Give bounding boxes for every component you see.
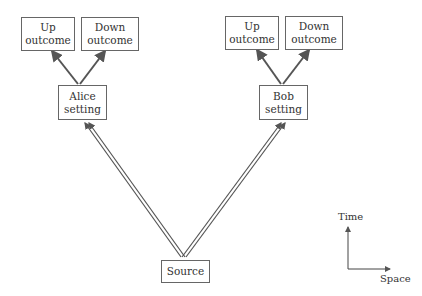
alice-to-up-arrow	[52, 51, 78, 84]
box-line: outcome	[87, 34, 133, 47]
source-to-alice-line-1	[85, 123, 181, 257]
source-box: Source	[161, 260, 210, 283]
bob-up-outcome-box: Up outcome	[225, 16, 279, 50]
box-line: outcome	[291, 33, 337, 46]
box-line: outcome	[229, 33, 275, 46]
space-label: Space	[380, 273, 411, 284]
box-line: Alice	[69, 90, 95, 103]
source-label: Source	[167, 265, 204, 278]
box-line: Down	[95, 21, 126, 34]
source-to-bob-line-2	[186, 123, 285, 257]
alice-setting-box: Alice setting	[58, 85, 107, 120]
bob-to-up-arrow	[257, 50, 281, 84]
box-line: Bob	[273, 90, 294, 103]
box-line: Down	[299, 20, 330, 33]
alice-to-down-arrow	[80, 51, 105, 84]
source-to-alice-line-2	[89, 123, 185, 257]
box-line: outcome	[25, 34, 71, 47]
bob-setting-box: Bob setting	[259, 85, 308, 120]
alice-up-outcome-box: Up outcome	[21, 17, 75, 51]
box-line: Up	[244, 20, 260, 33]
alice-down-outcome-box: Down outcome	[81, 17, 139, 51]
source-to-bob-line-1	[182, 123, 281, 257]
box-line: setting	[265, 103, 302, 116]
box-line: setting	[64, 103, 101, 116]
bob-down-outcome-box: Down outcome	[285, 16, 343, 50]
box-line: Up	[40, 21, 56, 34]
bob-to-down-arrow	[283, 50, 309, 84]
time-label: Time	[338, 211, 363, 222]
